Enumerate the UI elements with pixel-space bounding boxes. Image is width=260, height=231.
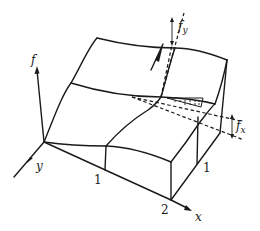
x-axis-label: x xyxy=(195,210,202,224)
fx-tangent xyxy=(132,97,244,140)
fy-label: fy xyxy=(177,19,188,35)
f-axis xyxy=(35,66,45,142)
partial-derivative-diagram: f y x 1 2 1 xyxy=(0,0,260,231)
fx-label: fx xyxy=(235,119,246,135)
tick-label-2: 2 xyxy=(161,203,169,217)
tick-label-1-right: 1 xyxy=(203,161,211,175)
surface xyxy=(44,38,227,162)
f-axis-label: f xyxy=(30,53,38,67)
tick-label-1-front: 1 xyxy=(94,173,102,187)
y-axis-label: y xyxy=(35,159,43,173)
